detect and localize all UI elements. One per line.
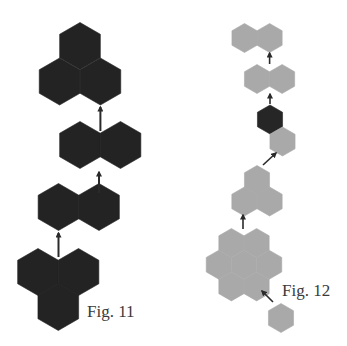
- cluster-triad-top: [39, 23, 121, 106]
- hexagon-tile: [257, 24, 282, 53]
- cluster-pair-second: [244, 65, 294, 94]
- hexagon-tile: [244, 65, 269, 94]
- hexagon-tile: [270, 65, 295, 94]
- arrow-icon: [263, 153, 276, 165]
- hexagon-tile: [268, 304, 293, 333]
- figure-11-hex-sequence: [18, 23, 141, 331]
- hexagon-tile: [38, 184, 79, 231]
- hexagon-tile: [232, 24, 257, 53]
- cluster-triad: [232, 166, 282, 217]
- figure-12-caption: Fig. 12: [282, 282, 330, 299]
- figure-11-caption: Fig. 11: [87, 303, 135, 320]
- hexagon-tile: [100, 122, 141, 169]
- cluster-pair-top: [232, 24, 282, 53]
- hexagon-tile: [60, 122, 101, 169]
- cluster-flower-seven: [206, 229, 282, 301]
- cluster-pair-lower: [38, 184, 119, 231]
- cluster-single-bottom: [268, 304, 293, 333]
